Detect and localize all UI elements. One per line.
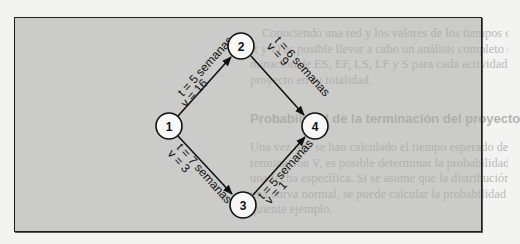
- node-2: 2: [228, 33, 254, 59]
- node-2-label: 2: [238, 40, 245, 54]
- edge-3-4: t = 5 semanas v = 1: [253, 136, 316, 207]
- node-3: 3: [230, 192, 256, 218]
- node-1-label: 1: [166, 120, 173, 134]
- edge-1-2: t = 5 semanas v = 16: [175, 33, 236, 116]
- node-1: 1: [156, 113, 182, 139]
- node-4-label: 4: [312, 120, 319, 134]
- node-4: 4: [302, 113, 328, 139]
- node-3-label: 3: [240, 199, 247, 213]
- edge-1-3: t = 7 semanas v = 3: [165, 136, 235, 206]
- edge-2-4: t = 6 semanas v = 9: [251, 34, 333, 115]
